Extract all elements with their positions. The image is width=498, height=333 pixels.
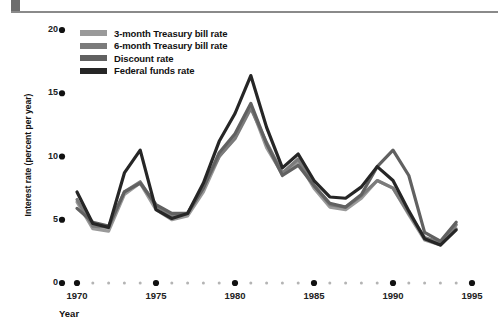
legend-swatch <box>80 30 107 36</box>
x-tick-label: 1975 <box>136 290 176 301</box>
y-tick-label: 20 <box>34 24 58 34</box>
y-tick-dot <box>59 27 65 33</box>
x-tick-dot-minor <box>328 282 331 285</box>
chart-plot-area <box>0 0 498 333</box>
x-tick-label: 1980 <box>215 290 255 301</box>
x-tick-label: 1995 <box>452 290 492 301</box>
x-tick-dot-minor <box>170 282 173 285</box>
x-tick-dot-minor <box>439 282 442 285</box>
legend-swatch <box>80 68 107 74</box>
x-axis-tick-dots <box>74 280 475 286</box>
legend-swatch <box>80 55 107 61</box>
legend-swatch <box>80 43 107 49</box>
y-tick-label: 15 <box>34 87 58 97</box>
x-tick-label: 1985 <box>294 290 334 301</box>
legend-label: 6-month Treasury bill rate <box>114 40 228 51</box>
x-tick-dot-minor <box>281 282 284 285</box>
x-tick-dot-minor <box>139 282 142 285</box>
x-tick-dot-major <box>311 280 317 286</box>
legend-label: Federal funds rate <box>114 65 195 76</box>
legend-label: Discount rate <box>114 53 173 64</box>
x-tick-dot-minor <box>297 282 300 285</box>
x-tick-dot-minor <box>123 282 126 285</box>
legend-item: Federal funds rate <box>80 65 228 78</box>
x-tick-label: 1970 <box>57 290 97 301</box>
x-tick-dot-major <box>153 280 159 286</box>
y-tick-label: 0 <box>34 277 58 287</box>
legend-item: Discount rate <box>80 52 228 65</box>
y-tick-dot <box>59 90 65 96</box>
x-tick-dot-minor <box>218 282 221 285</box>
x-tick-dot-minor <box>423 282 426 285</box>
x-tick-dot-major <box>74 280 80 286</box>
x-tick-dot-minor <box>455 282 458 285</box>
legend-label: 3-month Treasury bill rate <box>114 28 228 39</box>
x-tick-dot-minor <box>344 282 347 285</box>
x-tick-dot-minor <box>107 282 110 285</box>
y-tick-label: 5 <box>34 214 58 224</box>
chart-legend: 3-month Treasury bill rate6-month Treasu… <box>80 27 228 77</box>
y-tick-dot <box>59 217 65 223</box>
y-tick-dot <box>59 153 65 159</box>
x-tick-dot-minor <box>360 282 363 285</box>
x-tick-label: 1990 <box>373 290 413 301</box>
y-axis-tick-dots <box>59 27 65 286</box>
x-tick-dot-major <box>390 280 396 286</box>
x-tick-dot-major <box>469 280 475 286</box>
y-tick-label: 10 <box>34 151 58 161</box>
x-tick-dot-minor <box>202 282 205 285</box>
x-tick-dot-minor <box>265 282 268 285</box>
x-tick-dot-major <box>232 280 238 286</box>
x-tick-dot-minor <box>186 282 189 285</box>
y-tick-dot <box>59 280 65 286</box>
x-axis-title: Year <box>59 308 79 319</box>
legend-item: 6-month Treasury bill rate <box>80 40 228 53</box>
x-tick-dot-minor <box>376 282 379 285</box>
interest-rate-line-chart: 05101520 197019751980198519901995 Intere… <box>0 0 498 333</box>
x-tick-dot-minor <box>407 282 410 285</box>
legend-item: 3-month Treasury bill rate <box>80 27 228 40</box>
x-tick-dot-minor <box>249 282 252 285</box>
x-tick-dot-minor <box>91 282 94 285</box>
y-axis-title: Interest rate (percent per year) <box>23 75 33 235</box>
series-lines <box>77 76 456 246</box>
